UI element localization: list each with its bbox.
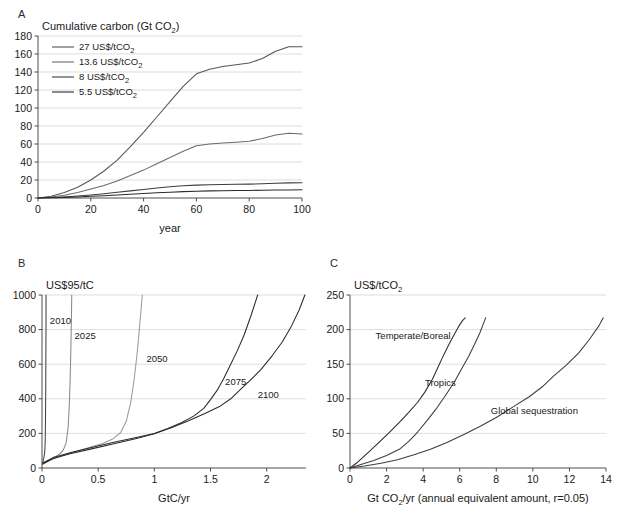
curve-annotation: 2075 [225,376,246,387]
x-tick-label: 40 [138,203,150,215]
y-tick-label: 400 [18,392,36,404]
y-tick-label: 200 [18,427,36,439]
x-axis-label: year [159,222,181,234]
x-tick-label: 0 [39,473,45,485]
y-tick-label: 200 [326,323,344,335]
y-tick-label: 40 [20,156,32,168]
panel-c-chart: 05010015020025002468101214Temperate/Bore… [310,255,622,520]
x-tick-label: 1.5 [203,473,218,485]
panel-title: US$95/tC [46,279,94,291]
x-tick-label: 2 [384,473,390,485]
y-tick-label: 120 [14,84,32,96]
x-tick-label: 2 [264,473,270,485]
x-tick-label: 100 [293,203,311,215]
y-tick-label: 140 [14,66,32,78]
y-tick-label: 20 [20,174,32,186]
x-tick-label: 0 [347,473,353,485]
y-tick-label: 800 [18,323,36,335]
panel-c: C 05010015020025002468101214Temperate/Bo… [310,255,622,520]
y-tick-label: 0 [26,192,32,204]
curve-5-5-us-tco2 [38,190,302,198]
curve-annotation: 2025 [75,330,96,341]
curve-annotation: Tropics [425,377,456,388]
panel-a-letter: A [18,8,25,20]
x-axis-label: Gt CO2/yr (annual equivalent amount, r=0… [367,492,589,507]
panel-c-letter: C [330,257,338,269]
y-tick-label: 100 [14,102,32,114]
x-tick-label: 0.5 [91,473,106,485]
y-tick-label: 180 [14,30,32,42]
y-tick-label: 600 [18,358,36,370]
panel-title: Cumulative carbon (Gt CO2) [42,20,179,35]
clipped-caption-sliver [0,515,622,523]
y-tick-label: 250 [326,289,344,301]
y-tick-label: 1000 [13,289,37,301]
panel-title: US$/tCO2 [354,279,402,294]
x-tick-label: 80 [243,203,255,215]
curve-27-us-tco2 [38,47,302,198]
y-tick-label: 60 [20,138,32,150]
legend-label: 27 US$/tCO2 [79,41,134,55]
curve-2010 [42,295,46,465]
panel-b-letter: B [18,257,25,269]
curve-2100 [43,295,305,464]
x-tick-label: 1 [151,473,157,485]
x-axis-label: GtC/yr [158,492,190,504]
curve-annotation: Temperate/Boreal [376,330,451,341]
panel-b-chart: 0200400600800100000.511.5220102025205020… [0,255,320,520]
x-tick-label: 14 [600,473,612,485]
curve-annotation: 2050 [146,353,167,364]
x-tick-label: 4 [420,473,426,485]
panel-b: B 0200400600800100000.511.52201020252050… [0,255,320,520]
x-tick-label: 60 [191,203,203,215]
x-tick-label: 10 [527,473,539,485]
legend-label: 5.5 US$/tCO2 [79,86,137,100]
panel-a-chart: 020406080100120140160180020406080100Cumu… [0,0,320,250]
x-tick-label: 0 [35,203,41,215]
y-tick-label: 100 [326,392,344,404]
x-tick-label: 12 [564,473,576,485]
y-tick-label: 150 [326,358,344,370]
curve-annotation: 2010 [50,315,71,326]
curve-annotation: Global sequestration [491,405,578,416]
clipped-caption-text [0,515,622,523]
curve-13-6-us-tco2 [38,133,302,198]
x-tick-label: 20 [85,203,97,215]
y-tick-label: 50 [332,427,344,439]
y-tick-label: 0 [30,462,36,474]
y-tick-label: 160 [14,48,32,60]
legend-label: 8 US$/tCO2 [79,71,129,85]
curve-annotation: 2100 [258,389,279,400]
panel-a: A 020406080100120140160180020406080100Cu… [0,0,320,250]
x-tick-label: 8 [493,473,499,485]
x-tick-label: 6 [457,473,463,485]
legend-label: 13.6 US$/tCO2 [79,56,142,70]
y-tick-label: 80 [20,120,32,132]
y-tick-label: 0 [338,462,344,474]
